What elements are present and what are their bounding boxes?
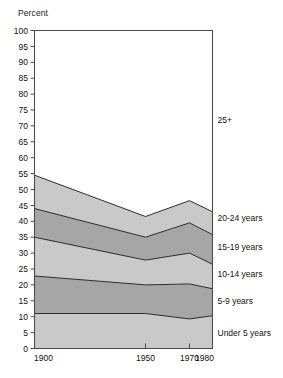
series-label-20-24-years: 20-24 years	[218, 213, 263, 223]
x-axis-tick-label: 1950	[136, 353, 155, 363]
chart-plot-svg: 0510152025303540455055606570758085909510…	[0, 0, 283, 378]
area-bands-group	[35, 31, 213, 349]
y-axis-tick-label: 70	[19, 121, 29, 131]
y-axis-tick-label: 75	[19, 105, 29, 115]
series-label-15-19-years: 15-19 years	[218, 242, 263, 252]
y-axis-tick-label: 45	[19, 201, 29, 211]
x-axis-tick-label: 1980	[195, 353, 214, 363]
y-axis-tick-label: 100	[14, 26, 28, 36]
y-axis-tick-label: 0	[23, 344, 28, 354]
y-axis-tick-label: 85	[19, 73, 29, 83]
y-axis-tick-label: 50	[19, 185, 29, 195]
y-axis-tick-label: 60	[19, 153, 29, 163]
y-axis-tick-label: 25	[19, 264, 29, 274]
y-axis-tick-label: 30	[19, 248, 29, 258]
y-axis-tick-label: 55	[19, 169, 29, 179]
y-axis-tick-label: 40	[19, 216, 29, 226]
series-labels-group: Under 5 years5-9 years10-14 years15-19 y…	[218, 115, 271, 338]
y-axis-tick-label: 5	[23, 328, 28, 338]
y-axis-tick-label: 65	[19, 137, 29, 147]
series-label-10-14-years: 10-14 years	[218, 269, 263, 279]
y-axis-ticks-group: 0510152025303540455055606570758085909510…	[14, 26, 35, 354]
y-axis-tick-label: 90	[19, 57, 29, 67]
series-label-under-5-years: Under 5 years	[218, 328, 271, 338]
stacked-area-chart: Percent 05101520253035404550556065707580…	[0, 0, 283, 378]
y-axis-tick-label: 35	[19, 232, 29, 242]
series-label-5-9-years: 5-9 years	[218, 296, 253, 306]
y-axis-tick-label: 10	[19, 312, 29, 322]
y-axis-tick-label: 15	[19, 296, 29, 306]
y-axis-tick-label: 80	[19, 89, 29, 99]
x-axis-tick-label: 1900	[34, 353, 53, 363]
series-label-25: 25+	[218, 115, 232, 125]
y-axis-tick-label: 95	[19, 42, 29, 52]
y-axis-tick-label: 20	[19, 280, 29, 290]
